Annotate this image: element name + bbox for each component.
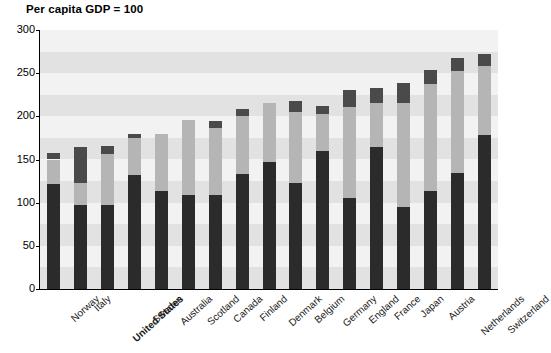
bar-segment-middle	[101, 154, 114, 205]
bar-segment-middle	[451, 71, 464, 174]
bar[interactable]	[182, 30, 195, 289]
bar[interactable]	[478, 30, 491, 289]
bar-segment-lower	[316, 151, 329, 289]
bar[interactable]	[74, 30, 87, 289]
x-axis-label: Finland	[257, 293, 289, 323]
bar-segment-lower	[370, 147, 383, 289]
bar-segment-upper	[128, 134, 141, 138]
bar-segment-middle	[397, 103, 410, 207]
y-axis-tick-label: 250	[0, 67, 35, 78]
bar-segment-upper	[478, 54, 491, 66]
bar-segment-upper	[289, 101, 302, 112]
bar[interactable]	[289, 30, 302, 289]
bar[interactable]	[370, 30, 383, 289]
bar-segment-middle	[128, 138, 141, 175]
bar-segment-lower	[343, 198, 356, 289]
bar-segment-lower	[155, 191, 168, 289]
x-axis-label: Japan	[418, 293, 446, 319]
bar-segment-upper	[209, 121, 222, 128]
y-axis-tick-label: 0	[0, 283, 35, 294]
y-axis-tick-label: 50	[0, 240, 35, 251]
y-axis-tick-label: 200	[0, 110, 35, 121]
bar-segment-lower	[236, 174, 249, 289]
bar-segment-upper	[343, 90, 356, 107]
bar-segment-middle	[182, 120, 195, 195]
y-axis-tick-mark	[36, 246, 40, 247]
x-axis-labels: NorwayItalyUnited StatesSwedenAustraliaS…	[40, 291, 498, 353]
bar[interactable]	[451, 30, 464, 289]
bar-segment-upper	[424, 70, 437, 84]
bar-segment-lower	[424, 191, 437, 289]
bar-segment-lower	[397, 207, 410, 289]
x-axis-line	[39, 289, 498, 290]
bar-segment-upper	[236, 109, 249, 117]
bar-segment-middle	[236, 116, 249, 174]
bar-segment-upper	[47, 153, 60, 160]
y-axis-tick-mark	[36, 73, 40, 74]
chart-title: Per capita GDP = 100	[26, 3, 143, 15]
bar-segment-lower	[478, 135, 491, 289]
bar-segment-middle	[155, 134, 168, 191]
bar-segment-lower	[101, 205, 114, 289]
y-axis-tick-mark	[36, 289, 40, 290]
bar[interactable]	[101, 30, 114, 289]
y-axis-tick-label: 300	[0, 24, 35, 35]
bar-segment-lower	[128, 175, 141, 289]
bar-segment-lower	[47, 184, 60, 289]
y-axis-tick-label: 100	[0, 197, 35, 208]
bar[interactable]	[155, 30, 168, 289]
bar[interactable]	[128, 30, 141, 289]
bar[interactable]	[209, 30, 222, 289]
bar-segment-lower	[263, 162, 276, 289]
bar[interactable]	[263, 30, 276, 289]
plot-area	[40, 30, 498, 289]
bar[interactable]	[424, 30, 437, 289]
bar-segment-middle	[478, 66, 491, 135]
bar-segment-middle	[370, 103, 383, 147]
bar-segment-upper	[101, 146, 114, 155]
y-axis-tick-mark	[36, 203, 40, 204]
bar[interactable]	[316, 30, 329, 289]
bar-segment-middle	[47, 160, 60, 184]
bar[interactable]	[236, 30, 249, 289]
y-axis-tick-mark	[36, 116, 40, 117]
bar-segment-lower	[182, 195, 195, 289]
bar-segment-middle	[424, 84, 437, 191]
bar-segment-upper	[74, 147, 87, 182]
x-axis-label: Austria	[446, 293, 476, 322]
y-axis-tick-label: 150	[0, 154, 35, 165]
bar-segment-upper	[397, 83, 410, 104]
y-axis-tick-mark	[36, 160, 40, 161]
bar-segment-middle	[289, 112, 302, 183]
bar-segment-lower	[209, 195, 222, 289]
bar-segment-upper	[316, 106, 329, 114]
bar[interactable]	[343, 30, 356, 289]
bar-segment-middle	[74, 183, 87, 205]
bar-segment-upper	[451, 58, 464, 71]
bar-segment-lower	[289, 183, 302, 289]
bar[interactable]	[47, 30, 60, 289]
bar-segment-lower	[451, 173, 464, 289]
bar-segment-middle	[263, 103, 276, 162]
bar-segment-upper	[370, 88, 383, 103]
bar-segment-middle	[343, 107, 356, 199]
bar[interactable]	[397, 30, 410, 289]
bar-segment-lower	[74, 205, 87, 289]
bar-segment-middle	[316, 114, 329, 151]
y-axis-tick-mark	[36, 30, 40, 31]
bar-segment-middle	[209, 128, 222, 195]
